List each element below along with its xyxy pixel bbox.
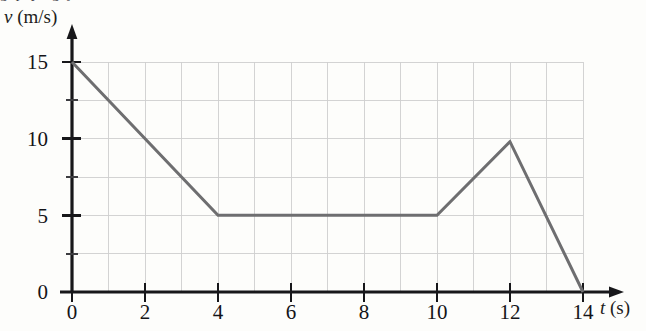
y-tick-label-5: 5 [4,204,48,229]
x-tick-label-2: 2 [123,300,167,325]
x-tick-label-8: 8 [342,300,386,325]
y-tick-label-10: 10 [4,127,48,152]
y-axis-unit: (m/s) [17,6,57,27]
y-axis-variable: v [4,6,12,27]
x-tick-label-4: 4 [196,300,240,325]
y-axis-arrowhead [67,24,78,39]
x-tick-label-0: 0 [50,300,94,325]
x-axis-unit: (s) [610,297,630,318]
figure-canvas: g p y, g j [0,0,646,331]
velocity-time-graph [0,0,646,331]
x-tick-label-12: 12 [488,300,532,325]
y-tick-label-0: 0 [4,280,48,305]
y-axis-title: v (m/s) [4,6,57,28]
x-tick-label-6: 6 [269,300,313,325]
x-tick-label-10: 10 [415,300,459,325]
x-axis-arrowhead [609,287,624,298]
x-tick-label-14: 14 [561,300,605,325]
y-tick-label-15: 15 [4,50,48,75]
